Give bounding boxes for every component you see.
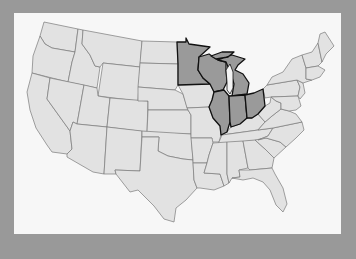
lake-michigan bbox=[226, 64, 233, 94]
state-massachusetts-ct-ri: Massachusetts/CT/RI bbox=[306, 66, 325, 80]
state-florida: Florida bbox=[232, 168, 287, 212]
us-map: WashingtonOregonCaliforniaIdahoNevadaMon… bbox=[0, 0, 356, 259]
state-wyoming: Wyoming bbox=[98, 63, 140, 101]
state-north-dakota: North Dakota bbox=[140, 41, 178, 64]
state-colorado: Colorado bbox=[107, 98, 148, 132]
state-new-mexico: New Mexico bbox=[104, 127, 142, 174]
state-kansas: Kansas bbox=[147, 110, 191, 134]
state-south-dakota: South Dakota bbox=[138, 63, 178, 90]
state-arizona: Arizona bbox=[67, 122, 107, 174]
states-layer: WashingtonOregonCaliforniaIdahoNevadaMon… bbox=[27, 22, 334, 222]
